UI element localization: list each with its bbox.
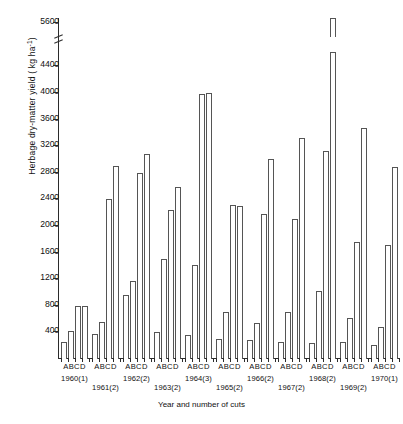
x-tick-mark: [192, 358, 193, 362]
bar-cap-1968-D: [330, 18, 336, 37]
x-tick-mark: [316, 358, 317, 362]
x-year-label-1965: 1965(2): [213, 383, 247, 392]
x-tick-mark: [347, 358, 348, 362]
bar-1968-C: [323, 151, 329, 359]
y-tick-1200: 1200: [0, 278, 59, 279]
x-tick-mark: [371, 358, 372, 362]
x-tick-mark: [330, 358, 331, 362]
y-tick-4400: 4400: [0, 65, 59, 66]
bar-1963-B: [161, 259, 167, 359]
y-tick-2400: 2400: [0, 198, 59, 199]
x-tick-mark: [206, 358, 207, 362]
x-tick-mark: [99, 358, 100, 362]
x-tick-mark: [89, 358, 90, 362]
x-tick-mark: [120, 358, 121, 362]
bar-1966-A: [247, 340, 253, 359]
x-tick-mark: [247, 358, 248, 362]
x-year-label-1963: 1963(2): [151, 383, 185, 392]
y-tick-label: 3200: [13, 139, 59, 149]
group-treatment-labels-1964: ABCD: [185, 362, 213, 371]
x-tick-mark: [261, 358, 262, 362]
group-treatment-labels-1960: ABCD: [61, 362, 89, 371]
x-tick-mark: [230, 358, 231, 362]
group-treatment-labels-1965: ABCD: [216, 362, 244, 371]
y-tick-label: 3600: [13, 113, 59, 123]
x-tick-mark: [223, 358, 224, 362]
plot-area: [59, 18, 400, 359]
y-tick-label: 2400: [13, 192, 59, 202]
x-tick-mark: [175, 358, 176, 362]
bar-1967-C: [292, 219, 298, 359]
bar-1961-A: [92, 334, 98, 359]
group-treatment-labels-1961: ABCD: [92, 362, 120, 371]
bar-1960-C: [75, 306, 81, 359]
x-tick-mark: [378, 358, 379, 362]
bar-1961-C: [106, 199, 112, 359]
x-tick-mark: [68, 358, 69, 362]
x-tick-mark: [309, 358, 310, 362]
y-tick-label: 1600: [13, 246, 59, 256]
bar-1961-B: [99, 322, 105, 359]
bar-1967-A: [278, 342, 284, 359]
x-year-label-1962: 1962(2): [120, 374, 154, 383]
group-treatment-labels-1966: ABCD: [247, 362, 275, 371]
x-year-label-1970: 1970(1): [368, 374, 402, 383]
x-tick-mark: [75, 358, 76, 362]
x-tick-mark: [278, 358, 279, 362]
x-year-label-1967: 1967(2): [275, 383, 309, 392]
x-tick-mark: [113, 358, 114, 362]
bar-1962-B: [130, 281, 136, 359]
bar-1960-D: [82, 306, 88, 359]
group-treatment-labels-1967: ABCD: [278, 362, 306, 371]
y-tick-800: 800: [0, 305, 59, 306]
bar-1963-C: [168, 210, 174, 359]
x-tick-mark: [306, 358, 307, 362]
y-tick-label: 1200: [13, 272, 59, 282]
bar-1965-D: [237, 206, 243, 359]
x-tick-mark: [151, 358, 152, 362]
bar-1963-A: [154, 332, 160, 359]
bar-1962-C: [137, 173, 143, 359]
y-tick-3600: 3600: [0, 119, 59, 120]
x-tick-mark: [168, 358, 169, 362]
bar-1964-A: [185, 335, 191, 359]
x-tick-mark: [254, 358, 255, 362]
y-axis-title-tail: ): [27, 37, 37, 40]
bar-1968-A: [309, 343, 315, 359]
x-tick-mark: [299, 358, 300, 362]
bar-1970-B: [378, 327, 384, 359]
bar-1969-A: [340, 342, 346, 359]
x-tick-mark: [92, 358, 93, 362]
bar-1969-B: [347, 318, 353, 359]
x-year-label-1969: 1969(2): [337, 383, 371, 392]
bar-1965-C: [230, 205, 236, 359]
bar-1964-C: [199, 94, 205, 359]
x-tick-mark: [354, 358, 355, 362]
x-year-label-1968: 1968(2): [306, 374, 340, 383]
y-tick-label: 800: [13, 299, 59, 309]
x-tick-mark: [275, 358, 276, 362]
bar-1966-D: [268, 159, 274, 359]
y-tick-3200: 3200: [0, 145, 59, 146]
chart-figure: Herbage dry-matter yield ( kg ha-1) 5600…: [0, 0, 403, 424]
x-axis-title: Year and number of cuts: [0, 400, 403, 409]
x-tick-mark: [399, 358, 400, 362]
x-tick-mark: [106, 358, 107, 362]
bar-1967-D: [299, 138, 305, 359]
bar-1964-B: [192, 265, 198, 359]
x-tick-mark: [216, 358, 217, 362]
x-tick-mark: [123, 358, 124, 362]
x-year-label-1964: 1964(3): [182, 374, 216, 383]
y-tick-4000: 4000: [0, 92, 59, 93]
y-tick-label: 400: [13, 325, 59, 335]
bar-1960-A: [61, 342, 67, 359]
x-tick-mark: [361, 358, 362, 362]
y-tick-label: 4000: [13, 86, 59, 96]
group-treatment-labels-1970: ABCD: [371, 362, 399, 371]
y-tick-400: 400: [0, 331, 59, 332]
x-tick-mark: [285, 358, 286, 362]
bar-1969-D: [361, 128, 367, 359]
x-tick-mark: [244, 358, 245, 362]
bar-1967-B: [285, 312, 291, 359]
x-tick-mark: [82, 358, 83, 362]
